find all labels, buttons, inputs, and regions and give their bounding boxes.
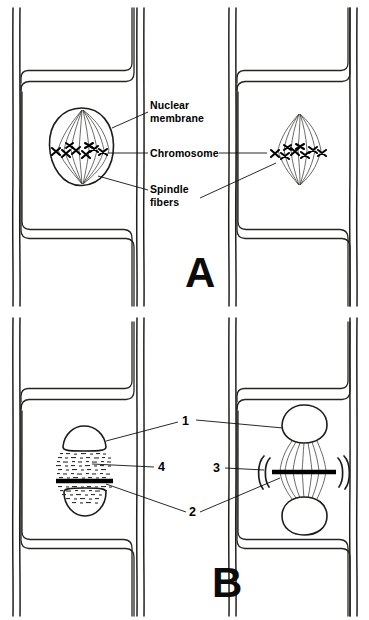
panel-b-left-daughter-cells bbox=[56, 426, 113, 516]
panel-a-right-spindle bbox=[271, 114, 326, 185]
panel-a-right-cell-outline bbox=[237, 8, 350, 306]
panel-b-cell-walls bbox=[13, 318, 357, 616]
panel-a-left-nucleus bbox=[49, 108, 113, 186]
panel-b-leader-lines bbox=[92, 420, 283, 512]
panel-b-right-bracket-marks bbox=[338, 456, 349, 489]
panel-b-group bbox=[13, 318, 357, 616]
mitosis-figure: Nuclear membrane Chromosome Spindle fibe… bbox=[0, 0, 369, 620]
panel-b-right-daughter-cells bbox=[259, 405, 350, 535]
panel-a-leader-lines bbox=[98, 112, 276, 198]
panel-a-cell-walls bbox=[13, 8, 357, 306]
panel-b-left-bracket-marks bbox=[259, 456, 270, 489]
panel-a-left-cell-outline bbox=[21, 8, 134, 306]
diagram-canvas bbox=[0, 0, 369, 620]
panel-b-left-cell-outline bbox=[21, 322, 134, 616]
panel-a-group bbox=[13, 8, 357, 306]
